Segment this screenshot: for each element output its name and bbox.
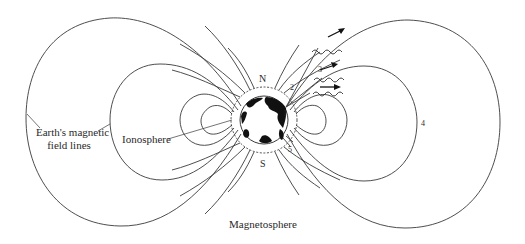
field-lines-label-line1: Earth's magnetic	[36, 127, 102, 138]
magnetosphere-diagram	[0, 0, 525, 244]
field-lines-label-line2: field lines	[36, 140, 102, 151]
field-line-middle-left	[110, 64, 238, 180]
north-label: N	[259, 74, 266, 84]
field-line-outer-right	[287, 20, 500, 228]
number-3-label: 3	[318, 66, 322, 74]
number-5-label: 5	[288, 146, 292, 154]
ionosphere-leader	[168, 120, 232, 139]
south-label: S	[260, 159, 266, 169]
wave-arrow-3	[313, 84, 343, 96]
field-line-inner-right-2	[296, 105, 326, 134]
polar-field-lines-south	[172, 143, 340, 214]
field-line-inner-left-2	[201, 105, 232, 134]
number-1-label: 1	[283, 110, 287, 118]
field-lines-label: Earth's magnetic field lines	[36, 127, 102, 151]
ionosphere-label: Ionosphere	[122, 134, 171, 145]
polar-field-lines-north	[172, 26, 340, 97]
number-4-label: 4	[421, 120, 425, 128]
field-line-inner-left-1	[180, 94, 234, 145]
diagram-title: Magnetosphere	[218, 219, 308, 230]
field-line-outer-left	[26, 18, 241, 226]
field-line-inner-right-1	[294, 95, 347, 146]
number-2-label: 2	[290, 84, 294, 92]
